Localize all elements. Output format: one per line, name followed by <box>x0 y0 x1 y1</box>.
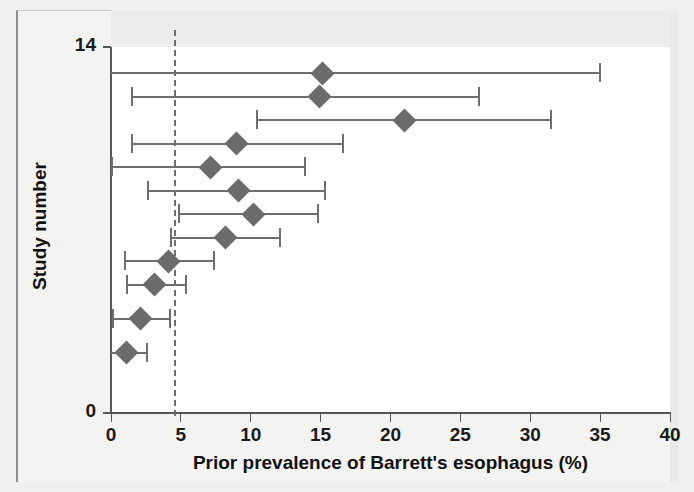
error-bar-cap-high <box>324 181 326 200</box>
error-bar-cap-low <box>111 157 113 176</box>
x-tick <box>460 414 461 422</box>
x-tick-label: 10 <box>231 424 271 446</box>
x-tick-label: 20 <box>371 424 411 446</box>
x-tick <box>530 414 531 422</box>
error-bar-cap-high <box>304 157 306 176</box>
error-bar-cap-high <box>185 275 187 294</box>
error-bar-cap-low <box>147 181 149 200</box>
error-bar-line <box>131 96 479 98</box>
y-axis-line <box>110 47 112 414</box>
x-tick <box>250 414 251 422</box>
x-tick-label: 40 <box>650 424 690 446</box>
y-tick-label: 0 <box>62 400 96 422</box>
error-bar-cap-high <box>317 204 319 223</box>
x-tick-label: 0 <box>91 424 131 446</box>
reference-line <box>174 30 176 416</box>
error-bar-cap-low <box>126 275 128 294</box>
error-bar-cap-high <box>342 134 344 153</box>
scan-right-band <box>670 10 678 482</box>
x-tick-label: 30 <box>510 424 550 446</box>
error-bar-cap-high <box>146 343 148 362</box>
plot-canvas <box>111 47 670 413</box>
y-tick <box>103 412 111 414</box>
x-tick-label: 15 <box>301 424 341 446</box>
error-bar-cap-high <box>599 63 601 82</box>
error-bar-cap-high <box>279 228 281 247</box>
x-tick-label: 5 <box>161 424 201 446</box>
scan-top-band <box>111 10 678 48</box>
figure-page: 0510152025303540 014 Prior prevalence of… <box>0 0 694 492</box>
x-axis-label: Prior prevalence of Barrett's esophagus … <box>111 452 670 474</box>
y-tick <box>103 46 111 48</box>
error-bar-line <box>111 72 600 74</box>
error-bar-cap-low <box>131 87 133 106</box>
error-bar-cap-low <box>131 134 133 153</box>
error-bar-cap-low <box>178 204 180 223</box>
x-tick <box>180 414 181 422</box>
x-tick-label: 35 <box>580 424 620 446</box>
y-axis-label: Study number <box>29 126 51 326</box>
error-bar-cap-low <box>124 251 126 270</box>
x-tick <box>390 414 391 422</box>
x-tick <box>320 414 321 422</box>
error-bar-cap-low <box>112 309 114 328</box>
error-bar-cap-high <box>213 251 215 270</box>
error-bar-cap-high <box>478 87 480 106</box>
x-tick <box>670 414 671 422</box>
error-bar-cap-high <box>550 110 552 129</box>
error-bar-cap-high <box>169 309 171 328</box>
error-bar-cap-low <box>170 228 172 247</box>
x-tick <box>600 414 601 422</box>
x-tick-label: 25 <box>440 424 480 446</box>
error-bar-cap-low <box>256 110 258 129</box>
y-tick-label: 14 <box>62 34 96 56</box>
x-tick <box>111 414 112 422</box>
